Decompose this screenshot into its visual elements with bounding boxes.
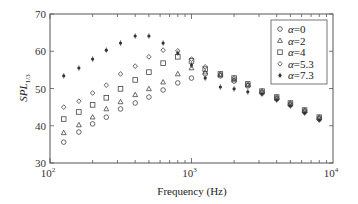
square-marker [147, 70, 152, 75]
y-tick-label: 40 [35, 120, 47, 132]
star-marker [105, 47, 108, 53]
star-marker [91, 56, 94, 62]
diamond-marker [77, 99, 81, 104]
y-tick-label: 70 [35, 8, 47, 20]
diamond-marker [189, 57, 193, 62]
chart: 3040506070102103104 α=0α=2α=4α=5.3α=7.3 … [0, 0, 358, 204]
y-tick-label: 50 [35, 83, 47, 95]
square-marker [104, 96, 109, 101]
square-marker [161, 61, 166, 66]
legend: α=0α=2α=4α=5.3α=7.3 [271, 20, 327, 84]
star-marker [119, 40, 122, 46]
star-marker [147, 33, 150, 39]
square-marker [61, 117, 66, 122]
star-marker [162, 40, 165, 46]
circle-marker [147, 95, 152, 100]
diamond-marker [118, 72, 122, 77]
triangle-marker [133, 92, 138, 96]
star-marker [232, 86, 235, 92]
star-marker [176, 50, 179, 56]
x-tick-label: 102 [41, 166, 56, 179]
legend-label: α=5.3 [288, 58, 314, 70]
diamond-marker [161, 48, 165, 53]
star-marker [246, 89, 249, 95]
triangle-marker [147, 86, 152, 90]
star-marker [219, 84, 222, 90]
square-marker [90, 103, 95, 108]
legend-label: α=0 [288, 23, 306, 35]
triangle-marker [161, 80, 166, 84]
x-axis-label: Frequency (Hz) [157, 185, 227, 198]
triangle-marker [104, 106, 109, 110]
circle-marker [161, 88, 166, 93]
triangle-marker [61, 130, 66, 134]
legend-label: α=7.3 [288, 69, 314, 81]
legend-label: α=2 [288, 35, 306, 47]
circle-marker [90, 122, 95, 127]
diamond-marker [133, 64, 137, 69]
legend-label: α=4 [288, 46, 306, 58]
y-axis-label-subscript: 1/3 [24, 74, 32, 83]
diamond-marker [104, 83, 108, 88]
square-marker [77, 110, 82, 115]
square-marker [133, 78, 138, 83]
star-marker [134, 33, 137, 39]
diamond-marker [147, 54, 151, 59]
y-axis-label-main: SPL [17, 83, 29, 101]
triangle-marker [118, 99, 123, 103]
star-marker [77, 65, 80, 71]
circle-marker [61, 140, 66, 145]
triangle-marker [175, 71, 180, 75]
circle-marker [77, 130, 82, 135]
y-tick-label: 60 [35, 45, 47, 57]
square-marker [118, 87, 123, 92]
star-marker [62, 73, 65, 79]
diamond-marker [62, 105, 66, 110]
circle-marker [133, 101, 138, 106]
x-tick-label: 104 [324, 166, 339, 179]
circle-marker [118, 107, 123, 112]
y-axis-label: SPL1/3 [17, 74, 32, 102]
triangle-marker [76, 122, 81, 126]
diamond-marker [90, 91, 94, 96]
triangle-marker [90, 115, 95, 119]
x-tick-label: 103 [182, 166, 197, 179]
circle-marker [189, 76, 194, 81]
circle-marker [104, 115, 109, 120]
circle-marker [175, 81, 180, 86]
